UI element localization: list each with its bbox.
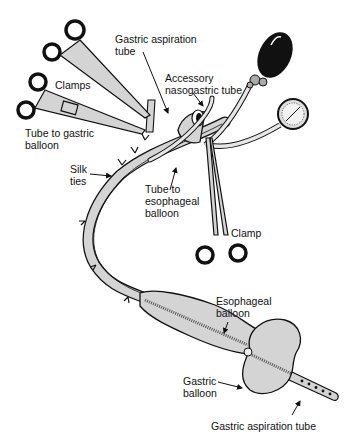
label-tube-to-gastric-balloon: Tube to gastric balloon [25,127,94,151]
label-silk-ties: Silk ties [70,163,87,187]
pressure-gauge-icon [278,99,308,129]
tube-illustration [0,0,356,447]
label-gastric-balloon: Gastric balloon [183,375,217,399]
inflation-bulb [247,26,300,88]
gastric-aspiration-tip [289,372,338,400]
label-gastric-aspiration-tube-bottom: Gastric aspiration tube [211,420,316,432]
esophageal-clamp [197,138,246,263]
label-tube-to-esophageal-balloon: Tube to esophageal balloon [145,183,199,219]
label-clamp: Clamp [231,227,261,239]
diagram-canvas: Gastric aspiration tube Accessory nasoga… [0,0,356,447]
label-esophageal-balloon: Esophageal balloon [216,295,271,319]
label-clamps: Clamps [55,79,91,91]
label-gastric-aspiration-tube: Gastric aspiration tube [115,33,197,57]
label-accessory-nasogastric-tube: Accessory nasogastric tube [165,72,242,96]
